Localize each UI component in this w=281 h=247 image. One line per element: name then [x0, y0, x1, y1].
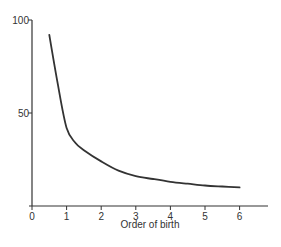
chart: 50100 0123456 Order of birth: [0, 0, 281, 247]
y-tick-label: 100: [12, 15, 29, 26]
x-tick-label: 1: [64, 211, 70, 222]
y-ticks: 50100: [12, 15, 32, 119]
x-tick-label: 2: [98, 211, 104, 222]
x-tick-label: 6: [237, 211, 243, 222]
data-curve: [49, 35, 239, 188]
x-tick-label: 5: [202, 211, 208, 222]
x-axis-label: Order of birth: [121, 219, 180, 230]
x-tick-label: 0: [29, 211, 35, 222]
y-tick-label: 50: [18, 108, 30, 119]
